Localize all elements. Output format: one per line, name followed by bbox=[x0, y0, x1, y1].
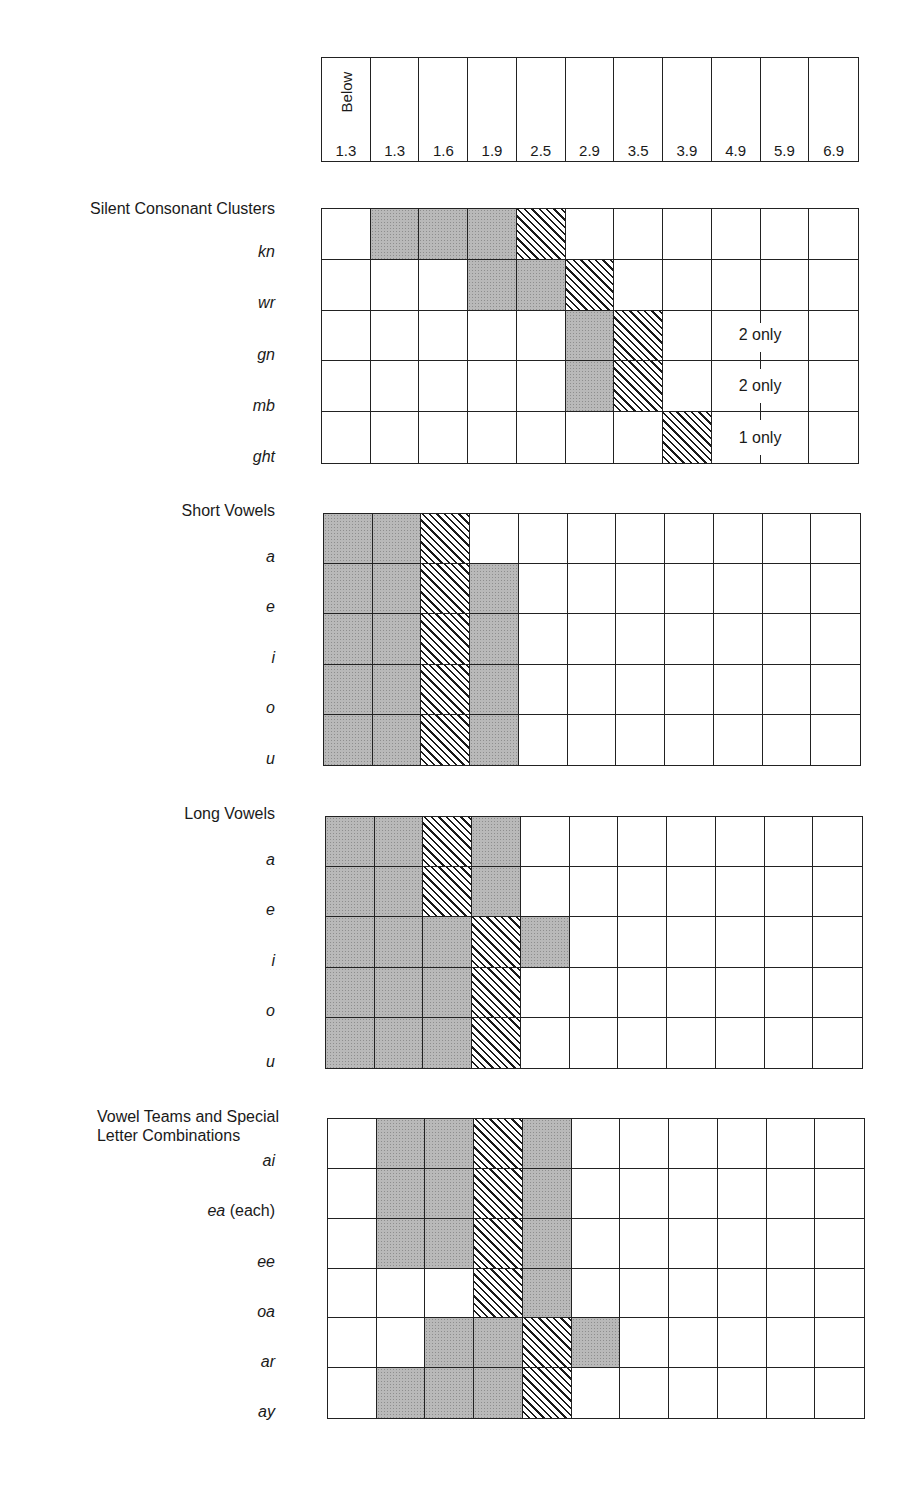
hatched-cell bbox=[523, 1318, 572, 1368]
blank-cell bbox=[519, 665, 568, 715]
shaded-cell bbox=[324, 614, 373, 664]
blank-cell bbox=[570, 917, 619, 967]
blank-cell bbox=[718, 1119, 767, 1169]
blank-cell bbox=[568, 715, 617, 765]
shaded-cell bbox=[375, 968, 424, 1018]
blank-cell bbox=[665, 665, 714, 715]
blank-cell bbox=[618, 917, 667, 967]
shaded-cell bbox=[470, 614, 519, 664]
blank-cell bbox=[718, 1219, 767, 1269]
shaded-cell bbox=[373, 614, 422, 664]
blank-cell bbox=[811, 614, 860, 664]
shaded-cell bbox=[377, 1368, 426, 1418]
shaded-cell bbox=[523, 1219, 572, 1269]
blank-cell bbox=[377, 1269, 426, 1319]
blank-cell bbox=[568, 665, 617, 715]
shaded-cell bbox=[326, 867, 375, 917]
shaded-cell bbox=[375, 817, 424, 867]
blank-cell bbox=[763, 715, 812, 765]
row-label: i bbox=[271, 649, 275, 667]
row-label: u bbox=[266, 750, 275, 768]
blank-cell bbox=[667, 917, 716, 967]
hatched-cell bbox=[472, 968, 521, 1018]
row-label: a bbox=[266, 851, 275, 869]
note-text: 2 only bbox=[739, 326, 782, 344]
blank-cell bbox=[377, 1318, 426, 1368]
hatched-cell bbox=[614, 361, 663, 412]
blank-cell bbox=[620, 1119, 669, 1169]
blank-cell bbox=[669, 1219, 718, 1269]
blank-cell bbox=[767, 1219, 816, 1269]
shaded-cell bbox=[375, 917, 424, 967]
blank-cell bbox=[468, 412, 517, 463]
blank-cell bbox=[614, 260, 663, 311]
header-col-5: 2.9 bbox=[566, 58, 615, 161]
blank-cell bbox=[663, 209, 712, 260]
grid-section-3 bbox=[327, 1118, 865, 1419]
blank-cell bbox=[809, 311, 858, 362]
blank-cell bbox=[811, 715, 860, 765]
blank-cell bbox=[712, 209, 761, 260]
shaded-cell bbox=[425, 1119, 474, 1169]
blank-cell bbox=[761, 260, 810, 311]
header-col-6: 3.5 bbox=[614, 58, 663, 161]
grade-level-header: Below 1.3 1.3 1.6 1.9 2.5 2.9 3.5 3.9 4.… bbox=[321, 57, 859, 162]
shaded-cell bbox=[517, 260, 566, 311]
row-label: oa bbox=[257, 1303, 275, 1321]
note-text: 1 only bbox=[739, 429, 782, 447]
header-below-label: Below bbox=[337, 72, 354, 113]
grid-note: 2 only bbox=[712, 361, 809, 412]
blank-cell bbox=[618, 968, 667, 1018]
blank-cell bbox=[767, 1368, 816, 1418]
blank-cell bbox=[371, 311, 420, 362]
hatched-cell bbox=[566, 260, 615, 311]
row-label: wr bbox=[258, 294, 275, 312]
blank-cell bbox=[328, 1169, 377, 1219]
hatched-cell bbox=[421, 715, 470, 765]
blank-cell bbox=[809, 412, 858, 463]
blank-cell bbox=[667, 817, 716, 867]
blank-cell bbox=[716, 968, 765, 1018]
blank-cell bbox=[519, 564, 568, 614]
blank-cell bbox=[714, 614, 763, 664]
section-title-silent-consonants: Silent Consonant Clusters bbox=[90, 199, 275, 218]
blank-cell bbox=[813, 968, 862, 1018]
header-col-4: 2.5 bbox=[517, 58, 566, 161]
header-col-2: 1.6 bbox=[419, 58, 468, 161]
divider-tick bbox=[760, 455, 761, 463]
header-col-9: 5.9 bbox=[761, 58, 810, 161]
blank-cell bbox=[570, 867, 619, 917]
row-label: u bbox=[266, 1053, 275, 1071]
blank-cell bbox=[763, 564, 812, 614]
blank-cell bbox=[809, 361, 858, 412]
blank-cell bbox=[517, 311, 566, 362]
blank-cell bbox=[663, 311, 712, 362]
hatched-cell bbox=[614, 311, 663, 362]
blank-cell bbox=[765, 917, 814, 967]
blank-cell bbox=[714, 715, 763, 765]
shaded-cell bbox=[371, 209, 420, 260]
blank-cell bbox=[616, 564, 665, 614]
shaded-cell bbox=[375, 867, 424, 917]
blank-cell bbox=[519, 514, 568, 564]
blank-cell bbox=[322, 412, 371, 463]
hatched-cell bbox=[517, 209, 566, 260]
blank-cell bbox=[815, 1169, 864, 1219]
blank-cell bbox=[718, 1368, 767, 1418]
blank-cell bbox=[765, 817, 814, 867]
shaded-cell bbox=[470, 564, 519, 614]
divider-tick bbox=[760, 311, 761, 323]
divider-tick bbox=[760, 412, 761, 420]
shaded-cell bbox=[523, 1119, 572, 1169]
blank-cell bbox=[517, 412, 566, 463]
note-text: 2 only bbox=[739, 377, 782, 395]
blank-cell bbox=[468, 311, 517, 362]
row-label: gn bbox=[257, 346, 275, 364]
grid-section-2 bbox=[325, 816, 863, 1069]
blank-cell bbox=[519, 715, 568, 765]
hatched-cell bbox=[474, 1219, 523, 1269]
blank-cell bbox=[521, 867, 570, 917]
blank-cell bbox=[614, 209, 663, 260]
blank-cell bbox=[616, 665, 665, 715]
hatched-cell bbox=[472, 917, 521, 967]
